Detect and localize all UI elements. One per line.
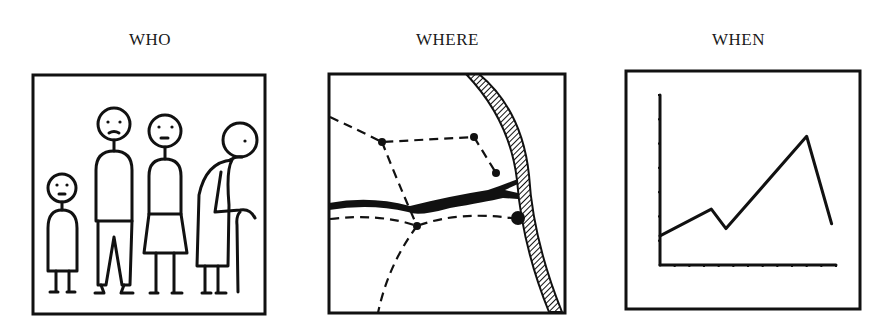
child-figure <box>48 174 77 292</box>
when-line-chart <box>590 0 887 335</box>
data-line <box>660 136 832 236</box>
river <box>329 179 518 214</box>
panel-who: WHO <box>0 0 300 335</box>
where-map-illustration <box>300 0 595 335</box>
elderly-figure-with-cane <box>197 123 257 293</box>
panel-where: WHERE <box>300 0 595 335</box>
man-figure <box>95 108 133 293</box>
panel-when: WHEN <box>590 0 887 335</box>
who-illustration <box>0 0 300 335</box>
woman-figure <box>144 115 187 293</box>
